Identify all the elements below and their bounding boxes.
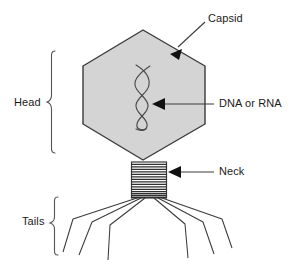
tail-fiber-3 bbox=[108, 198, 145, 260]
tail-fiber-4 bbox=[154, 198, 188, 258]
neck-shape bbox=[132, 162, 167, 198]
neck-annotation-leader bbox=[168, 166, 214, 178]
neck-label: Neck bbox=[219, 166, 244, 177]
capsid-label: Capsid bbox=[208, 13, 243, 24]
capsid-shape bbox=[83, 30, 205, 160]
bacteriophage-diagram: Capsid DNA or RNA Neck Head Tails bbox=[0, 0, 302, 266]
tails-label: Tails bbox=[22, 216, 45, 227]
head-brace-path bbox=[47, 51, 55, 153]
tails-brace bbox=[50, 197, 58, 255]
diagram-canvas bbox=[0, 0, 302, 266]
head-label: Head bbox=[14, 97, 41, 108]
head-brace bbox=[47, 51, 55, 153]
capsid-annotation-leader bbox=[170, 22, 205, 60]
dna-or-rna-label: DNA or RNA bbox=[219, 98, 282, 109]
capsid-leader-line bbox=[178, 22, 205, 47]
neck-arrowhead-icon bbox=[168, 166, 181, 178]
tails-brace-path bbox=[50, 197, 58, 255]
tail-fiber-1 bbox=[63, 198, 137, 252]
tail-fibers bbox=[63, 198, 232, 260]
capsid-hexagon bbox=[83, 30, 205, 160]
